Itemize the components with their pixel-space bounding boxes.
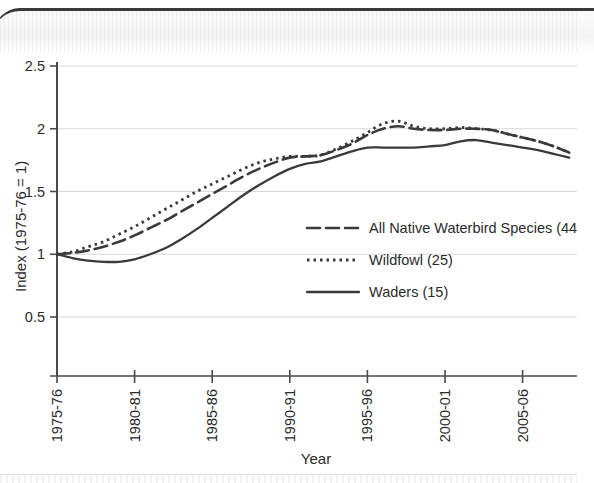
chart-gridlines: [57, 66, 577, 317]
x-tick-label: 1975-76: [49, 389, 65, 442]
x-tick-label: 2005-06: [515, 389, 531, 442]
y-tick-label: 0.5: [25, 309, 45, 325]
chart-legend: All Native Waterbird Species (44)Wildfow…: [307, 220, 577, 300]
y-axis-title: Index (1975-76 = 1): [12, 161, 29, 292]
y-axis-ticks: 0.511.522.5: [25, 58, 57, 325]
x-tick-label: 1985-86: [204, 389, 220, 442]
x-tick-label: 1990-91: [282, 389, 298, 442]
x-tick-label: 1995-96: [359, 389, 375, 442]
series-line: [57, 140, 569, 262]
y-tick-label: 2: [37, 121, 45, 137]
legend-label: All Native Waterbird Species (44): [369, 220, 577, 236]
x-axis-ticks: 1975-761980-811985-861990-911995-962000-…: [49, 370, 531, 442]
x-axis-title: Year: [301, 450, 331, 467]
x-tick-label: 1980-81: [127, 389, 143, 442]
x-tick-label: 2000-01: [437, 389, 453, 442]
legend-label: Wildfowl (25): [369, 252, 453, 268]
y-tick-label: 1: [37, 246, 45, 262]
legend-label: Waders (15): [369, 284, 448, 300]
y-tick-label: 2.5: [25, 58, 45, 74]
